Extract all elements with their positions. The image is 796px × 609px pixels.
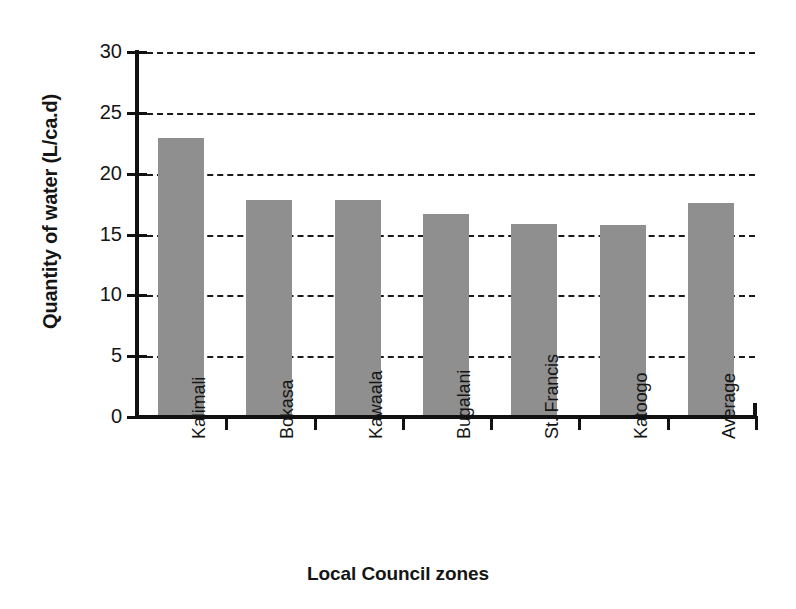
x-axis-category-label: Bugalani	[454, 370, 475, 439]
x-axis-category-label: Kawaala	[366, 371, 387, 439]
x-axis-tick-mark	[225, 416, 228, 430]
y-axis-tick-label: 0	[80, 406, 122, 426]
x-axis-category-label: Bokasa	[277, 380, 298, 439]
y-axis-tick-mark	[127, 234, 147, 237]
x-axis-tick-mark	[578, 416, 581, 430]
x-axis-tick-mark	[755, 416, 758, 430]
y-axis-tick-mark	[127, 416, 147, 419]
y-axis-tick-mark	[127, 112, 147, 115]
bar-chart-figure: Quantity of water (L/ca.d) 051015202530 …	[0, 0, 796, 609]
gridline	[137, 174, 755, 176]
y-axis-tick-mark	[127, 294, 147, 297]
x-axis-tick-mark	[402, 416, 405, 430]
y-axis-tick-label: 5	[80, 345, 122, 365]
x-axis-category-label: Average	[719, 373, 740, 439]
x-axis-tick-mark	[314, 416, 317, 430]
y-axis-tick-mark	[127, 173, 147, 176]
x-axis-tick-mark	[490, 416, 493, 430]
y-axis-tick-mark	[127, 51, 147, 54]
gridline	[137, 113, 755, 115]
x-axis-category-label: St. Francis	[542, 354, 563, 439]
y-axis-tick-label: 15	[80, 224, 122, 244]
x-axis-category-label: Katoogo	[631, 373, 652, 439]
y-axis-tick-label: 10	[80, 284, 122, 304]
y-axis-tick-mark	[127, 355, 147, 358]
x-axis-tick-mark	[667, 416, 670, 430]
x-axis-category-label: Kalimali	[189, 377, 210, 439]
gridline	[137, 52, 755, 54]
y-axis-tick-labels: 051015202530	[42, 0, 122, 609]
y-axis-tick-label: 30	[80, 41, 122, 61]
x-axis-title: Local Council zones	[0, 563, 796, 585]
plot-area	[137, 52, 755, 417]
y-axis-tick-label: 25	[80, 102, 122, 122]
bar	[158, 138, 204, 417]
x-axis-line	[135, 415, 757, 419]
y-axis-tick-label: 20	[80, 163, 122, 183]
